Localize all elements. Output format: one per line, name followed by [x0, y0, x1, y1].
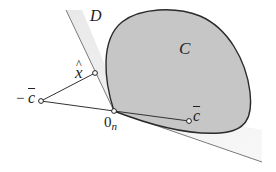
label-origin-sub: n [112, 120, 118, 132]
segment-negc-origin [41, 101, 114, 111]
diagram-svg [0, 0, 276, 172]
point-c-bar [187, 119, 192, 124]
point-neg-c-bar [39, 99, 44, 104]
label-origin-main: 0 [104, 114, 112, 130]
label-origin: 0n [104, 115, 117, 130]
label-D: D [90, 8, 102, 24]
set-C [106, 10, 251, 134]
point-origin [112, 109, 117, 114]
diagram-canvas: D C ^ x − c 0n c [0, 0, 276, 172]
label-neg-c-bar: c [28, 90, 35, 106]
label-C: C [179, 40, 190, 57]
point-x-hat [93, 71, 98, 76]
label-neg-sign: − [16, 91, 24, 106]
label-c-bar: c [193, 108, 200, 124]
label-x-hat: x [75, 64, 83, 81]
segment-negc-xhat [41, 73, 95, 101]
